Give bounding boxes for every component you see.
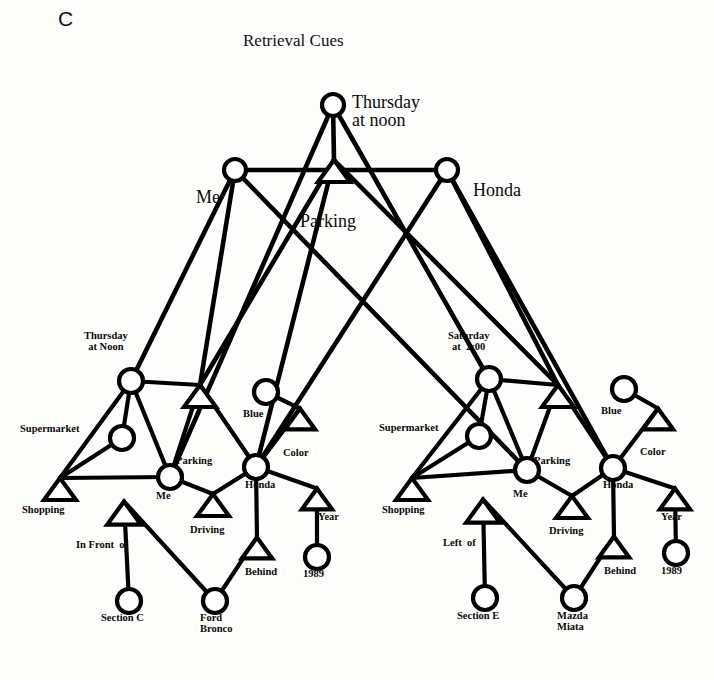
node-cue_me[interactable] [224, 159, 246, 181]
label-L_sectionC: Section C [101, 613, 144, 624]
label-L_thursday: Thursday at Noon [84, 331, 128, 352]
cue-edge-group [131, 105, 613, 477]
label-L_driving: Driving [190, 525, 224, 536]
node-R_honda[interactable] [601, 456, 625, 480]
node-L_sectionC[interactable] [117, 589, 141, 613]
node-R_saturday[interactable] [477, 367, 501, 391]
label-L_blue: Blue [243, 409, 263, 420]
node-L_supermarket[interactable] [110, 426, 134, 450]
label-L_year: Year [318, 512, 339, 523]
node-L_1989[interactable] [305, 545, 329, 569]
label-R_me: Me [513, 489, 528, 500]
node-R_blue[interactable] [612, 377, 636, 401]
label-R_mazda: Mazda Miata [557, 611, 588, 632]
label-R_shopping: Shopping [382, 505, 425, 516]
label-R_supermarket: Supermarket [379, 423, 439, 434]
label-R_sectionE: Section E [457, 611, 499, 622]
node-L_blue[interactable] [254, 380, 278, 404]
label-R_1989: 1989 [661, 566, 682, 577]
graph-edge [334, 160, 558, 385]
right-edge-group [412, 379, 676, 598]
node-L_thursday[interactable] [119, 369, 143, 393]
node-cue_honda[interactable] [436, 159, 458, 181]
label-L_honda: Honda [245, 480, 275, 491]
label-L_me: Me [156, 491, 171, 502]
node-R_color[interactable] [643, 409, 673, 430]
node-L_behind[interactable] [242, 538, 272, 559]
node-L_year[interactable] [302, 489, 332, 510]
node-L_shopping[interactable] [44, 478, 76, 500]
figure-title: Retrieval Cues [243, 31, 344, 51]
label-R_behind: Behind [604, 566, 636, 577]
graph-edge [489, 379, 527, 470]
label-L_ford: Ford Bronco [200, 613, 232, 634]
node-R_supermarket[interactable] [467, 424, 491, 448]
graph-edge [412, 470, 527, 478]
node-cue_thursday[interactable] [322, 94, 344, 116]
node-R_mazda[interactable] [562, 586, 586, 610]
label-L_infrontof: In Front of [76, 540, 128, 551]
label-cue_me: Me [196, 188, 220, 206]
node-R_1989[interactable] [664, 541, 688, 565]
label-R_honda: Honda [603, 480, 633, 491]
label-R_driving: Driving [549, 526, 583, 537]
label-R_saturday: Saturday at 2:00 [448, 331, 489, 352]
label-L_parking: Parking [176, 456, 212, 467]
node-R_sectionE[interactable] [473, 586, 497, 610]
node-R_behind[interactable] [599, 537, 629, 558]
graph-edge [60, 477, 170, 478]
label-R_year: Year [661, 512, 682, 523]
label-R_parking: Parking [534, 456, 570, 467]
graph-edge [447, 170, 613, 468]
node-R_year[interactable] [660, 489, 690, 510]
label-L_behind: Behind [245, 567, 277, 578]
graph-edge [131, 381, 170, 477]
label-L_1989: 1989 [303, 569, 324, 580]
node-R_driving[interactable] [556, 496, 588, 518]
label-cue_honda: Honda [473, 181, 521, 199]
left-edge-group [60, 381, 317, 601]
node-L_ford[interactable] [203, 589, 227, 613]
label-L_shopping: Shopping [22, 505, 65, 516]
node-L_driving[interactable] [197, 494, 229, 516]
panel-letter: C [58, 7, 73, 31]
label-R_leftof: Left of [443, 538, 476, 549]
label-L_color: Color [283, 448, 309, 459]
node-L_me[interactable] [158, 465, 182, 489]
label-R_color: Color [640, 447, 666, 458]
label-L_supermarket: Supermarket [20, 424, 80, 435]
node-L_honda[interactable] [244, 455, 268, 479]
node-R_shopping[interactable] [396, 478, 428, 500]
label-cue_thursday: Thursday at noon [352, 93, 420, 130]
label-R_blue: Blue [601, 406, 621, 417]
figure-canvas: C Retrieval Cues Thursday at noonMeHonda… [0, 0, 714, 680]
label-cue_parking: Parking [300, 212, 356, 230]
